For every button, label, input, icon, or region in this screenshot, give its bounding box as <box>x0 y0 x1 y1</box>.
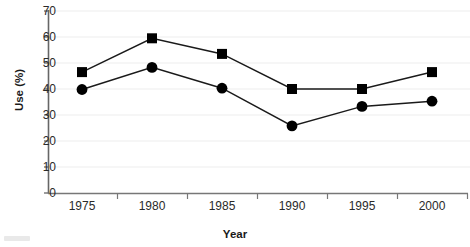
x-tick-label-1990: 1990 <box>257 200 327 212</box>
x-tick-label-1975: 1975 <box>47 200 117 212</box>
y-tick-label-40: 40 <box>22 83 56 95</box>
data-point-square-1995 <box>357 84 367 94</box>
y-tick-label-70: 70 <box>22 5 56 17</box>
data-point-square-2000 <box>427 67 437 77</box>
data-point-square-1975 <box>77 67 87 77</box>
x-tick-label-1985: 1985 <box>187 200 257 212</box>
data-point-circle-1980 <box>147 62 158 73</box>
data-point-square-1990 <box>287 84 297 94</box>
x-tick-label-2000: 2000 <box>397 200 467 212</box>
y-tick-label-30: 30 <box>22 109 56 121</box>
gridlines <box>48 11 470 167</box>
data-point-square-1985 <box>217 49 227 59</box>
data-point-circle-1975 <box>77 84 88 95</box>
y-tick-label-50: 50 <box>22 57 56 69</box>
y-tick-label-10: 10 <box>22 161 56 173</box>
data-point-circle-1985 <box>217 83 228 94</box>
series-circle <box>77 62 438 131</box>
x-tick-label-1995: 1995 <box>327 200 397 212</box>
series-square <box>77 33 437 94</box>
y-tick-label-60: 60 <box>22 31 56 43</box>
y-tick-label-0: 0 <box>22 187 56 199</box>
data-point-circle-1995 <box>357 101 368 112</box>
data-point-square-1980 <box>147 33 157 43</box>
line-chart: Use (%) Year 70 60 50 40 30 20 10 0 1975… <box>0 0 470 247</box>
data-point-circle-2000 <box>427 96 438 107</box>
x-axis-line <box>48 194 468 200</box>
data-point-circle-1990 <box>287 121 298 132</box>
y-tick-label-20: 20 <box>22 135 56 147</box>
x-tick-label-1980: 1980 <box>117 200 187 212</box>
x-axis-title: Year <box>0 228 470 240</box>
scan-artifact <box>4 236 30 241</box>
